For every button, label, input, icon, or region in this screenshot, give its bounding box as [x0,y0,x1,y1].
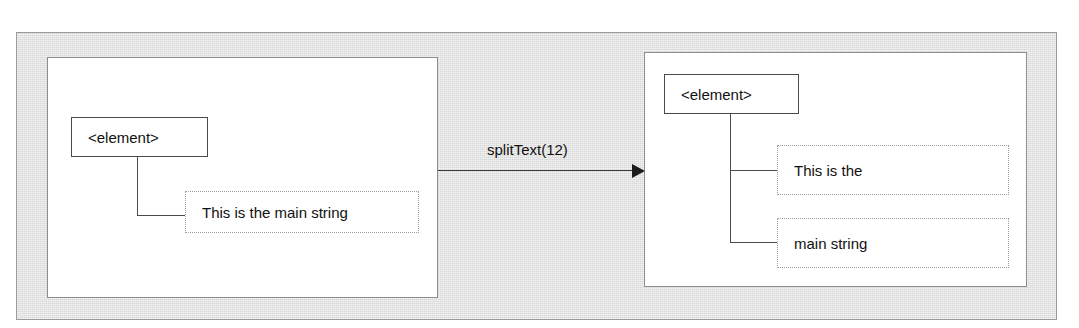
after-text-node-0-label: This is the [778,162,862,179]
before-connector-horizontal [137,215,186,216]
after-connector-horizontal-1 [730,242,778,243]
after-text-node-1-label: main string [778,235,867,252]
after-element-node-label: <element> [665,86,752,103]
after-text-node-0: This is the [777,145,1009,195]
before-connector-vertical [137,156,138,216]
transition-arrow-head [632,164,645,178]
before-text-node-0-label: This is the main string [186,204,348,221]
before-text-node-0: This is the main string [185,191,419,233]
transition-arrow-shaft [438,170,634,171]
before-state-panel [47,57,438,298]
after-text-node-1: main string [777,218,1009,268]
splittext-diagram: <element> This is the main string splitT… [0,0,1079,328]
before-element-node: <element> [71,117,208,157]
after-element-node: <element> [664,74,799,114]
transition-label: splitText(12) [487,141,568,158]
after-connector-horizontal-0 [730,170,778,171]
after-connector-vertical [730,113,731,243]
before-element-node-label: <element> [72,129,159,146]
